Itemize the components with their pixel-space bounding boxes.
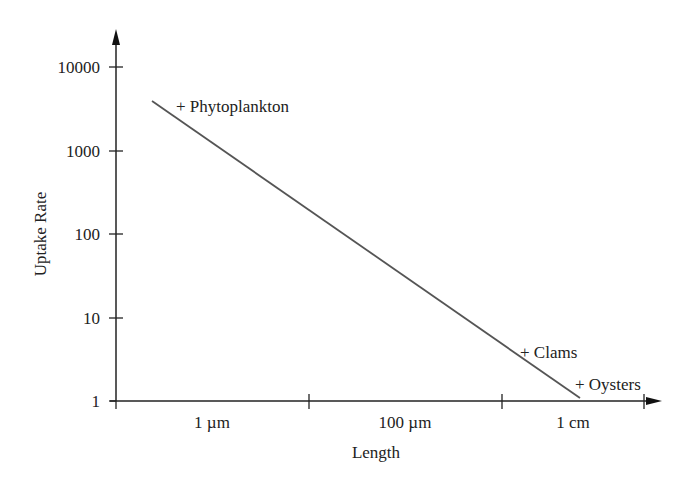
x-tick-label: 1 cm — [556, 413, 590, 432]
y-tick-label: 10 — [83, 309, 100, 328]
y-tick-label: 1 — [92, 392, 101, 411]
y-tick-label: 10000 — [58, 58, 101, 77]
annotation-clams: + Clams — [520, 343, 577, 362]
annotation-phytoplankton: + Phytoplankton — [176, 97, 290, 116]
x-axis-title: Length — [352, 443, 401, 462]
data-line — [152, 101, 580, 398]
annotation-oysters: + Oysters — [575, 375, 641, 394]
y-tick-label: 100 — [75, 225, 101, 244]
x-axis-arrow-icon — [646, 397, 662, 405]
y-axis-arrow-icon — [112, 29, 120, 45]
y-tick-label: 1000 — [66, 142, 100, 161]
y-axis-title: Uptake Rate — [31, 192, 50, 277]
chart: 10000 1000 100 10 1 1 µm 100 µm 1 cm Len… — [0, 0, 691, 487]
x-tick-label: 100 µm — [379, 413, 432, 432]
x-tick-label: 1 µm — [194, 413, 230, 432]
